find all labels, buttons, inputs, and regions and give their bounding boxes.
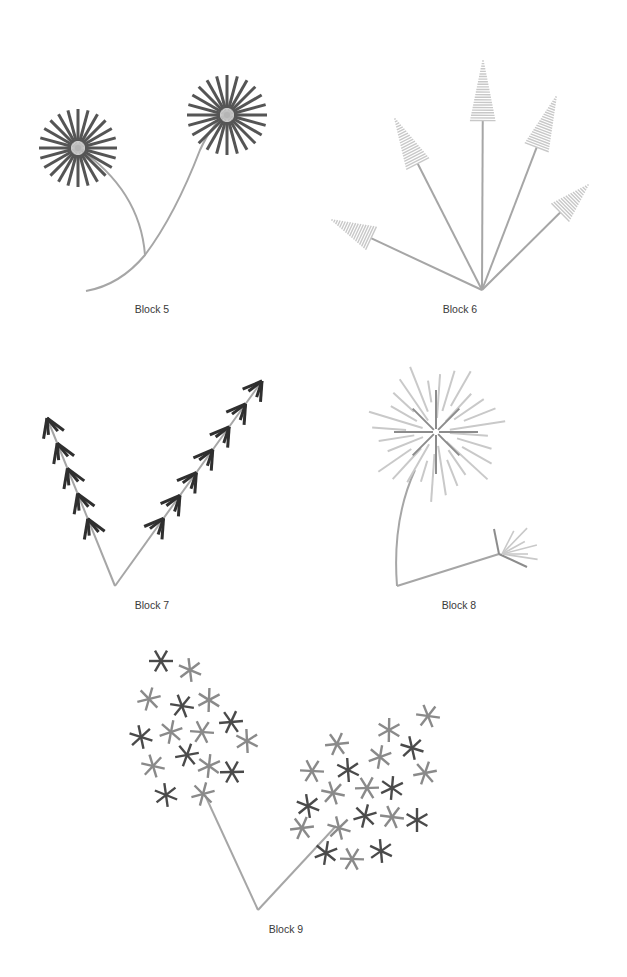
floret [175,744,199,767]
starburst [369,367,505,502]
floret [179,658,201,682]
floret [381,776,403,800]
chevron-mark [226,404,245,425]
light-ray [410,367,428,412]
light-ray [428,381,431,403]
cone-stripe [396,123,400,125]
floret [401,736,424,759]
small-seedhead [494,528,538,567]
striped-cone [394,119,429,170]
floret [416,705,440,727]
floret [198,688,219,712]
floret-spoke [403,740,421,756]
cone-stripe [364,226,374,248]
block-5-label: Block 5 [135,303,169,315]
floret [191,782,214,805]
cone-stripe [549,105,555,107]
chevron-line [44,418,47,439]
dark-ray [494,529,499,554]
cone-stripe [334,220,335,223]
stem [78,148,145,291]
chevron-line [84,519,87,540]
cone-stripe [538,123,552,128]
flower-center [224,112,230,118]
floret [198,754,220,778]
block-9-label: Block 9 [269,923,303,935]
floret [219,711,243,733]
stem [482,147,537,290]
cone-stripe [583,187,586,190]
floret [407,808,428,832]
floret-spoke [325,743,349,746]
cone-stripe [551,103,556,105]
cone-stripe [338,221,340,226]
floret [190,721,214,743]
light-ray [378,449,411,472]
light-ray [438,446,446,495]
cone-stripe [395,121,398,122]
block-7-label: Block 7 [135,599,169,611]
floret [160,720,183,744]
floret [355,777,379,798]
floret [321,782,344,805]
floret [340,848,364,869]
floret [379,718,400,742]
cone-stripe [587,184,588,185]
light-ray [442,371,454,411]
cone-stripe [561,198,575,212]
cone-stripe [539,121,552,126]
striped-cone [525,97,557,152]
cone-stripe [585,186,587,188]
light-ray [450,433,488,436]
floret [141,755,164,778]
chevron-line [64,468,67,489]
stem [115,381,262,586]
striped-cone [332,219,377,250]
floret [236,729,257,753]
floret-spoke [290,827,314,830]
block-8-label: Block 8 [442,599,476,611]
cone-stripe [348,223,353,235]
floret [155,783,177,807]
light-ray [372,428,406,430]
cone-stripe [554,99,557,100]
cone-stripe [394,119,395,120]
cone-stripe [332,219,333,220]
dark-ray [413,434,434,455]
chevron-mark [177,473,196,494]
floret-spoke [145,757,161,775]
floret [297,794,319,818]
floret [300,760,324,781]
stem [205,795,258,910]
cone-stripe [400,137,412,143]
cone-stripe [555,97,556,98]
stem [482,212,560,290]
floret [170,695,194,717]
block-6-drawing [332,61,589,290]
chevron-mark [193,450,212,471]
light-ray [447,460,457,486]
cone-stripe [336,220,338,224]
cone-stripe [397,127,403,130]
cone-stripe [366,227,377,250]
cone-stripe [575,191,582,198]
chevron-line [54,443,57,464]
block-7-drawing [44,381,262,586]
floret [149,651,173,672]
cone-stripe [548,108,555,111]
floret [220,762,244,783]
block-6-label: Block 6 [443,303,477,315]
floret [137,687,160,710]
floret [369,745,392,769]
light-ray [379,435,415,441]
stem [371,238,482,290]
cone-stripe [396,125,401,127]
block-5-drawing [39,75,267,291]
flower-center [75,145,81,151]
floret [413,762,437,785]
block-8-drawing [369,367,538,586]
block-9-drawing [130,651,440,910]
light-ray [450,421,505,430]
chevron-mark [144,518,163,539]
floret [290,817,314,839]
